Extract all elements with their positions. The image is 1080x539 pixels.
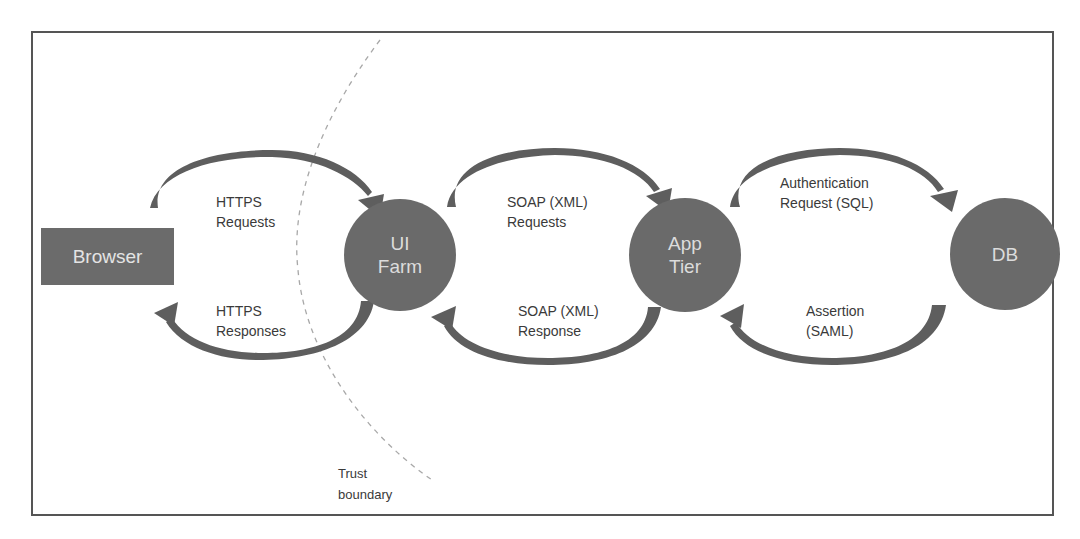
ui-farm-label-line1: UI <box>391 232 410 255</box>
ui-farm-label-line2: Farm <box>378 255 422 278</box>
app-tier-label-line1: App <box>668 232 702 255</box>
db-label: DB <box>992 243 1018 266</box>
app-tier-node: App Tier <box>629 198 741 312</box>
ui-farm-node: UI Farm <box>344 199 456 311</box>
browser-label: Browser <box>73 246 143 268</box>
browser-node: Browser <box>41 228 174 285</box>
app-tier-label-line2: Tier <box>669 255 701 278</box>
label-trust-boundary: Trust boundary <box>338 463 392 505</box>
label-https-requests: HTTPS Requests <box>216 192 275 232</box>
db-node: DB <box>950 198 1060 310</box>
label-soap-requests: SOAP (XML) Requests <box>507 192 588 232</box>
label-auth-request: Authentication Request (SQL) <box>780 173 873 213</box>
label-https-responses: HTTPS Responses <box>216 301 286 341</box>
label-assertion: Assertion (SAML) <box>806 301 864 341</box>
label-soap-response: SOAP (XML) Response <box>518 301 599 341</box>
